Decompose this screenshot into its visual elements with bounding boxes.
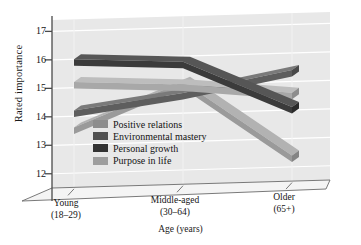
legend-label: Personal growth <box>113 143 178 154</box>
y-tick-label: 15 <box>20 83 46 93</box>
legend-swatch <box>93 144 108 152</box>
x-tick-line2: (65+) <box>239 204 329 216</box>
y-axis-title: Rated importance <box>13 19 24 149</box>
x-tick-labels: Young(18–29)Middle-aged(30–64)Older(65+) <box>0 193 361 223</box>
y-tick-label: 14 <box>20 112 46 122</box>
legend-swatch <box>93 157 108 165</box>
legend-item: Environmental mastery <box>93 130 243 142</box>
chart-figure: 171615141312 Young(18–29)Middle-aged(30–… <box>0 0 361 245</box>
y-tick-label: 13 <box>20 140 46 150</box>
legend-label: Environmental mastery <box>113 131 207 142</box>
y-tick-label: 12 <box>20 169 46 179</box>
x-tick-label: Young(18–29) <box>21 198 111 221</box>
legend-swatch <box>93 120 108 128</box>
y-tick-label: 16 <box>20 55 46 65</box>
chart-legend: Positive relationsEnvironmental masteryP… <box>93 118 243 167</box>
x-tick-line1: Young <box>54 198 79 208</box>
x-tick-line1: Older <box>273 192 295 202</box>
x-tick-line1: Middle-aged <box>151 195 200 205</box>
legend-item: Personal growth <box>93 142 243 154</box>
x-tick-line2: (18–29) <box>21 210 111 222</box>
legend-label: Positive relations <box>113 119 182 130</box>
x-tick-line2: (30–64) <box>130 207 220 219</box>
x-tick-label: Older(65+) <box>239 192 329 215</box>
legend-item: Purpose in life <box>93 155 243 167</box>
x-tick-label: Middle-aged(30–64) <box>130 195 220 218</box>
legend-item: Positive relations <box>93 118 243 130</box>
y-axis <box>45 16 52 201</box>
x-axis-title: Age (years) <box>0 224 361 234</box>
legend-label: Purpose in life <box>113 155 171 166</box>
y-tick-label: 17 <box>20 26 46 36</box>
legend-swatch <box>93 132 108 140</box>
